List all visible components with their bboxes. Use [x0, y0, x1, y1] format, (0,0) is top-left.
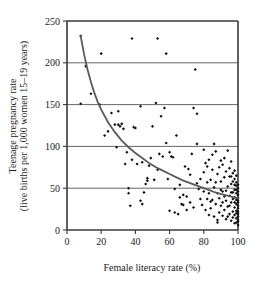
data-point [189, 201, 192, 204]
data-point [231, 216, 234, 219]
data-point [190, 152, 193, 155]
data-point [231, 180, 234, 183]
data-point [194, 68, 197, 71]
fitted-trend-curve [81, 36, 238, 198]
data-point [146, 177, 149, 180]
data-point [207, 192, 210, 195]
data-point [207, 213, 210, 216]
data-point [130, 158, 133, 161]
data-point [230, 175, 233, 178]
data-point [153, 178, 156, 181]
data-point [163, 106, 166, 109]
data-point [165, 142, 168, 145]
data-point [223, 157, 226, 160]
y-tick-label-50: 50 [50, 183, 60, 194]
data-point [154, 101, 157, 104]
data-point [189, 173, 192, 176]
data-point [136, 162, 139, 165]
data-point [231, 191, 234, 194]
data-point [224, 170, 227, 173]
data-point [130, 37, 133, 40]
x-tick-label-80: 80 [199, 236, 209, 247]
data-point [224, 199, 227, 202]
data-point [209, 207, 212, 210]
data-point [127, 192, 130, 195]
data-point [228, 213, 231, 216]
scatter-plot-svg: 020406080100 050100150200250 Female lite… [0, 0, 258, 283]
data-point [218, 197, 221, 200]
data-point [216, 172, 219, 175]
data-point [202, 148, 205, 151]
data-point [177, 213, 180, 216]
data-point [160, 115, 163, 118]
data-point [168, 209, 171, 212]
data-point [218, 211, 221, 214]
data-point [207, 158, 210, 161]
data-point [226, 215, 229, 218]
x-tick-label-100: 100 [231, 236, 246, 247]
data-point [233, 206, 236, 209]
x-tick-label-0: 0 [65, 236, 70, 247]
data-point [223, 176, 226, 179]
data-point [206, 181, 209, 184]
data-point [216, 221, 219, 224]
x-tick-label-20: 20 [96, 236, 106, 247]
data-point [166, 177, 169, 180]
x-tick-label-40: 40 [130, 236, 140, 247]
data-point [117, 110, 120, 113]
data-point [206, 198, 209, 201]
data-point [221, 163, 224, 166]
data-point [178, 196, 181, 199]
data-point [139, 199, 142, 202]
data-point [230, 160, 233, 163]
data-point [192, 106, 195, 109]
data-point [120, 122, 123, 125]
data-point [231, 210, 234, 213]
data-point [218, 166, 221, 169]
data-point [213, 215, 216, 218]
data-point [202, 171, 205, 174]
data-point [165, 52, 168, 55]
data-point [89, 92, 92, 95]
data-point [122, 127, 125, 130]
data-point [183, 165, 186, 168]
data-point [195, 142, 198, 145]
data-point [224, 218, 227, 221]
fit-curve [81, 36, 238, 198]
data-point [223, 208, 226, 211]
data-point [226, 185, 229, 188]
data-point [233, 177, 236, 180]
data-point [185, 195, 188, 198]
data-point [110, 111, 113, 114]
y-axis-title-line1: Teenage pregnancy rate [7, 78, 18, 173]
data-point [219, 159, 222, 162]
data-point [201, 203, 204, 206]
data-point [221, 201, 224, 204]
data-point [124, 162, 127, 165]
data-point [175, 134, 178, 137]
data-point [173, 211, 176, 214]
data-point [224, 189, 227, 192]
data-point [204, 208, 207, 211]
data-point [151, 125, 154, 128]
data-point [195, 112, 198, 115]
data-point [230, 182, 233, 185]
y-axis-title-line2: (live births per 1,000 women 15–19 years… [18, 41, 30, 211]
data-point [209, 178, 212, 181]
data-point [199, 198, 202, 201]
data-point [236, 223, 239, 226]
y-tick-label-200: 200 [45, 57, 60, 68]
y-tick-label-0: 0 [55, 225, 60, 236]
data-point [156, 37, 159, 40]
data-point [185, 208, 188, 211]
data-point [127, 187, 130, 190]
data-point [192, 206, 195, 209]
chart-figure: 020406080100 050100150200250 Female lite… [0, 0, 258, 283]
data-point [206, 165, 209, 168]
data-point [219, 204, 222, 207]
data-point [187, 167, 190, 170]
data-point [221, 214, 224, 217]
data-point [129, 204, 132, 207]
data-point [106, 130, 109, 133]
data-point [214, 181, 217, 184]
